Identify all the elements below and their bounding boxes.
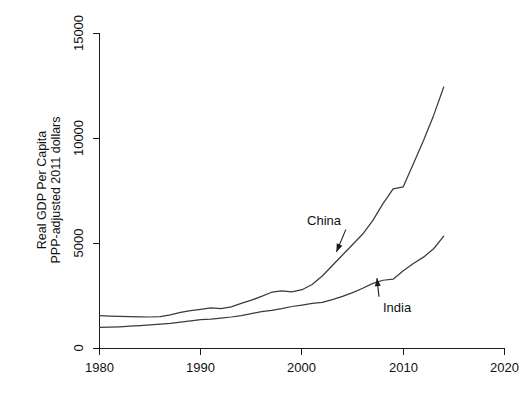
gdp-per-capita-line-chart: 0 5000 10000 15000 1980 1990 2000 2010 2…: [0, 0, 532, 399]
x-tick-label-1990: 1990: [186, 360, 215, 375]
x-tick-label-2010: 2010: [389, 360, 418, 375]
x-tick-label-2000: 2000: [287, 360, 316, 375]
annotation-label-china: China: [307, 213, 342, 228]
chart-figure: 0 5000 10000 15000 1980 1990 2000 2010 2…: [0, 0, 532, 399]
y-tick-label-0: 0: [71, 344, 86, 351]
x-tick-label-2020: 2020: [490, 360, 519, 375]
y-tick-label-15000: 15000: [71, 15, 86, 51]
x-tick-label-1980: 1980: [85, 360, 114, 375]
y-axis-title: Real GDP Per Capita PPP-adjusted 2011 do…: [35, 116, 63, 263]
y-tick-label-10000: 10000: [71, 120, 86, 156]
y-tick-label-5000: 5000: [71, 229, 86, 258]
chart-background: [0, 0, 532, 399]
y-axis-title-line1: Real GDP Per Capita: [35, 131, 49, 250]
annotation-label-india: India: [383, 300, 412, 315]
y-axis-title-line2: PPP-adjusted 2011 dollars: [49, 116, 63, 263]
